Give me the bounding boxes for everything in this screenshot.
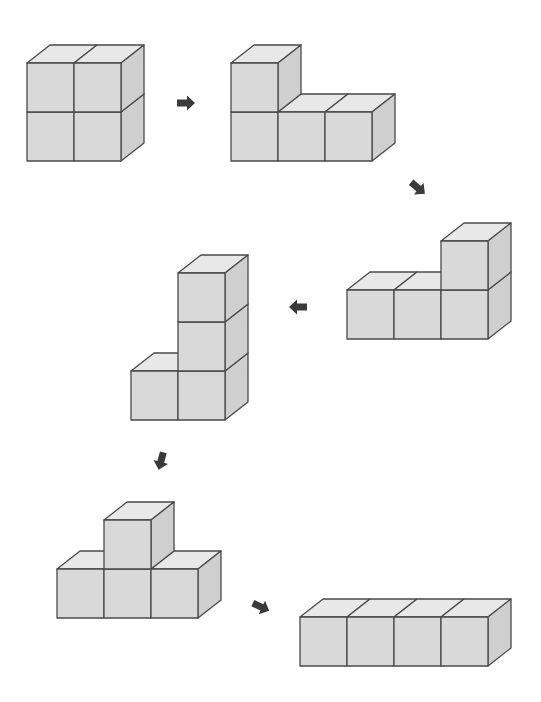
cube-front-face — [131, 371, 178, 420]
arrow-1-right-icon — [177, 96, 195, 111]
cube — [231, 112, 278, 161]
cube-front-face — [441, 241, 488, 290]
cube — [178, 255, 248, 322]
cube — [104, 502, 174, 569]
cube-front-face — [394, 617, 441, 666]
arrow-2-down-right-icon — [406, 176, 429, 199]
cube-front-face — [74, 63, 121, 112]
arrow-3-left-icon — [289, 300, 307, 315]
cube-front-face — [441, 290, 488, 339]
shape-6: Straight row of four cubes — [300, 599, 511, 666]
cube — [325, 94, 395, 161]
shape-3: L shape: three cubes in a row, one on to… — [347, 223, 511, 339]
cube — [27, 112, 74, 161]
shape-2: L shape: three cubes in a row, one on to… — [231, 45, 395, 161]
diagram-canvas: Cube block transformation sequence 2x2 s… — [0, 0, 541, 702]
cube-front-face — [178, 371, 225, 420]
arrow-icon — [406, 176, 429, 199]
cube — [74, 45, 144, 112]
cube-front-face — [57, 569, 104, 618]
cube — [441, 223, 511, 290]
shape-1: 2x2 square of four cubes — [27, 45, 144, 161]
arrow-icon — [250, 596, 273, 617]
arrow-icon — [177, 96, 195, 111]
cube-front-face — [151, 569, 198, 618]
cube-front-face — [104, 520, 151, 569]
arrow-icon — [151, 450, 170, 471]
diagram-svg: 2x2 square of four cubesL shape: three c… — [0, 0, 541, 702]
cube-front-face — [104, 569, 151, 618]
cube — [231, 45, 301, 112]
arrow-icon — [289, 300, 307, 315]
cube-front-face — [441, 617, 488, 666]
cube-front-face — [231, 63, 278, 112]
cube-front-face — [231, 112, 278, 161]
arrow-4-down-left-icon — [151, 450, 170, 471]
cube — [104, 569, 151, 618]
cube-front-face — [300, 617, 347, 666]
cube-front-face — [178, 273, 225, 322]
cube — [441, 599, 511, 666]
arrow-5-down-right-icon — [250, 596, 273, 617]
cube-front-face — [325, 112, 372, 161]
shape-4: Tower of three cubes with one cube at bo… — [131, 255, 248, 420]
cube-front-face — [27, 63, 74, 112]
cube-front-face — [27, 112, 74, 161]
cube-front-face — [347, 290, 394, 339]
cube-front-face — [74, 112, 121, 161]
cube-front-face — [278, 112, 325, 161]
cube-front-face — [347, 617, 394, 666]
cube-front-face — [394, 290, 441, 339]
cube-front-face — [178, 322, 225, 371]
shape-5: T shape: three cubes in a row, one on to… — [57, 502, 221, 618]
